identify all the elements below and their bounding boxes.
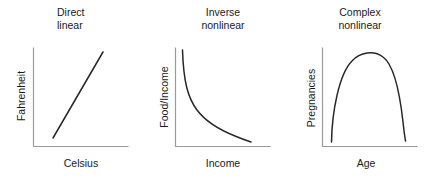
panel-1-title: Direct linear [57,6,137,32]
panel-1-x-axis-label: Celsius [41,157,121,169]
panel-2-x-axis-label: Income [183,157,263,169]
panel-1-y-axis-label: Fahrenheit [15,59,27,134]
panel-complex-nonlinear: Complex nonlinear Pregnancies Age [282,0,424,182]
panel-3-y-axis-label: Pregnancies [305,61,317,136]
panel-2-title: Inverse nonlinear [180,6,266,32]
panel-3-x-axis-label: Age [326,157,406,169]
panel-inverse-nonlinear: Inverse nonlinear Food/Income Income [140,0,282,182]
panel-3-title: Complex nonlinear [314,6,406,32]
relationship-charts-figure: Direct linear Fahrenheit Celsius Inverse… [0,0,424,182]
panel-direct-linear: Direct linear Fahrenheit Celsius [0,0,140,182]
panel-2-y-axis-label: Food/Income [158,60,170,135]
